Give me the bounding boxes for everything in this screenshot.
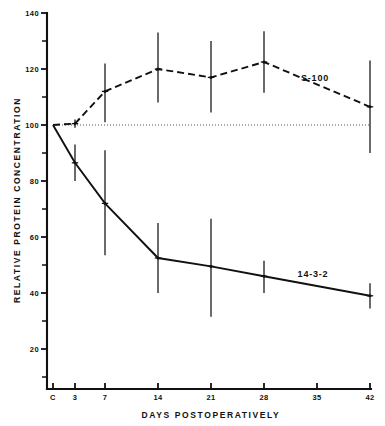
x-tick-label-14: 14	[153, 393, 163, 402]
y-tick-label-80: 80	[30, 177, 39, 186]
data-point	[210, 76, 213, 79]
x-tick-label-7: 7	[103, 393, 108, 402]
series-label-14-3-2: 14-3-2	[298, 269, 329, 279]
y-tick-label-120: 120	[25, 65, 39, 74]
y-tick-label-100: 100	[25, 121, 39, 130]
y-tick-label-20: 20	[30, 345, 39, 354]
data-point	[210, 265, 213, 268]
x-tick-label-c: C	[50, 393, 56, 402]
series-label-s100: S-100	[301, 73, 329, 83]
x-tick-label-3: 3	[73, 393, 78, 402]
data-point	[157, 257, 160, 260]
data-point	[104, 90, 107, 93]
series-14-3-2	[53, 125, 373, 317]
x-tick-label-35: 35	[312, 393, 321, 402]
figure-container: 140 120 100 80 60 40 20 C 3 7 14 21 28 3…	[0, 0, 385, 426]
data-point	[263, 61, 266, 64]
x-tick-label-42: 42	[365, 393, 374, 402]
data-point	[74, 161, 77, 164]
data-point	[369, 294, 372, 297]
y-tick-label-60: 60	[30, 233, 39, 242]
x-axis-title: DAYS POSTOPERATIVELY	[142, 410, 281, 420]
data-point	[157, 68, 160, 71]
data-point	[369, 105, 372, 108]
line-chart: 140 120 100 80 60 40 20 C 3 7 14 21 28 3…	[0, 0, 385, 426]
y-axis-title: RELATIVE PROTEIN CONCENTRATION	[12, 97, 22, 303]
data-point	[263, 275, 266, 278]
series-s-100	[53, 31, 373, 153]
x-tick-label-28: 28	[259, 393, 268, 402]
y-tick-label-40: 40	[30, 289, 39, 298]
x-tick-label-21: 21	[206, 393, 215, 402]
y-tick-label-140: 140	[25, 9, 39, 18]
data-point	[74, 122, 77, 125]
data-point	[104, 202, 107, 205]
